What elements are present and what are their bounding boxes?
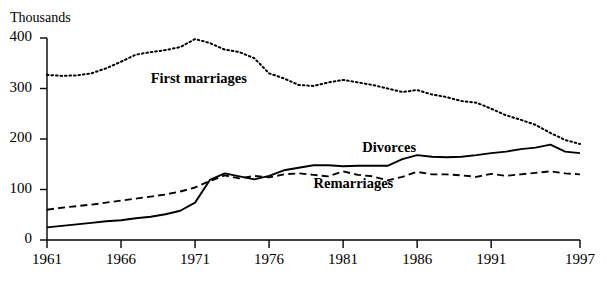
x-axis-tick-label: 1976 xyxy=(246,251,292,268)
x-axis-tick-label: 1981 xyxy=(320,251,366,268)
x-axis-tick-label: 1991 xyxy=(468,251,514,268)
x-axis-tick-label: 1971 xyxy=(172,251,218,268)
divorces-label: Divorces xyxy=(362,139,416,156)
remarriages-label: Remarriages xyxy=(314,175,394,192)
x-axis-tick-label: 1997 xyxy=(557,251,603,268)
axes-group xyxy=(47,38,580,240)
chart-container: Thousands 0100200300400 1961196619711976… xyxy=(0,0,607,285)
x-axis-ticks xyxy=(47,240,580,248)
x-axis-tick-label: 1966 xyxy=(98,251,144,268)
series-paths-group xyxy=(47,39,580,227)
series-line-first-marriages xyxy=(47,39,580,144)
y-axis-tick-label: 400 xyxy=(0,28,32,45)
y-axis-tick-label: 200 xyxy=(0,129,32,146)
first-marriages-label: First marriages xyxy=(151,70,247,87)
line-chart-plot xyxy=(0,0,607,285)
y-axis-tick-label: 100 xyxy=(0,180,32,197)
x-axis-tick-label: 1986 xyxy=(394,251,440,268)
x-axis-tick-label: 1961 xyxy=(24,251,70,268)
y-axis-tick-label: 0 xyxy=(0,230,32,247)
y-axis-tick-label: 300 xyxy=(0,79,32,96)
y-axis-ticks xyxy=(40,38,47,240)
